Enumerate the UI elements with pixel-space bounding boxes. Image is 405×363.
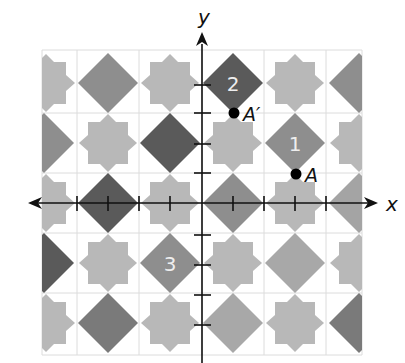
diamond-tile <box>14 233 74 293</box>
diamond-tile <box>203 293 263 353</box>
star-tile <box>79 234 137 292</box>
y-axis-up-arrow-icon <box>196 32 208 46</box>
point-a <box>291 169 302 180</box>
diamond-tile <box>140 113 200 173</box>
diamond-tile <box>78 293 138 353</box>
point-a-prime-label: A′ <box>241 103 261 125</box>
tile-label-2: 2 <box>227 72 240 96</box>
star-tile <box>79 114 137 172</box>
y-axis-label: y <box>197 5 211 29</box>
tile-label-3: 3 <box>164 252 177 276</box>
diamond-tile <box>78 53 138 113</box>
diamond-tile <box>329 293 389 353</box>
diamond-tile <box>329 53 389 113</box>
star-tile <box>17 54 75 112</box>
star-tile <box>266 294 324 352</box>
star-tile <box>141 54 199 112</box>
star-tile <box>204 234 262 292</box>
tile-label-1: 1 <box>289 132 302 156</box>
diamond-tile <box>265 233 325 293</box>
star-tile <box>17 294 75 352</box>
star-tile <box>330 114 388 172</box>
x-axis-label: x <box>385 192 398 216</box>
star-tile <box>266 54 324 112</box>
coordinate-plane-tessellation: 2 1 3 x y A′ A <box>0 0 405 363</box>
point-a-label: A <box>303 164 318 186</box>
point-a-prime <box>229 108 240 119</box>
diamond-tile <box>14 113 74 173</box>
star-tile <box>141 294 199 352</box>
star-tile <box>330 234 388 292</box>
